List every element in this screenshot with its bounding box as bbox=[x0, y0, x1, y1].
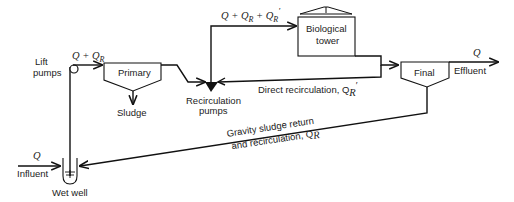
flow-diagram: Q Influent Wet well Lift pumps Q + QR Pr… bbox=[0, 0, 514, 202]
svg-text:Q + QR + QR′: Q + QR + QR′ bbox=[221, 6, 281, 24]
lift-pump-icon bbox=[70, 65, 78, 73]
svg-text:Effluent: Effluent bbox=[454, 65, 486, 76]
pumps-to-tower bbox=[211, 26, 296, 82]
svg-text:Q: Q bbox=[473, 47, 481, 58]
svg-text:Biological: Biological bbox=[306, 23, 347, 34]
svg-text:pumps: pumps bbox=[199, 105, 228, 116]
svg-text:Q + QR: Q + QR bbox=[72, 50, 105, 64]
svg-text:Sludge: Sludge bbox=[117, 107, 147, 118]
influent-label: Influent bbox=[17, 168, 49, 179]
svg-text:Primary: Primary bbox=[118, 67, 151, 78]
svg-text:pumps: pumps bbox=[33, 67, 62, 78]
wet-well-label: Wet well bbox=[52, 187, 88, 198]
svg-text:Final: Final bbox=[414, 67, 435, 78]
svg-text:Q: Q bbox=[33, 150, 41, 161]
tower-to-final bbox=[355, 56, 398, 65]
influent-flow: Q Influent bbox=[17, 150, 60, 179]
svg-text:Direct recirculation, QR′: Direct recirculation, QR′ bbox=[258, 79, 358, 98]
recirculation-pump-icon bbox=[205, 82, 218, 92]
svg-text:tower: tower bbox=[316, 35, 339, 46]
svg-text:Lift: Lift bbox=[35, 56, 48, 67]
primary-to-pumps bbox=[161, 65, 205, 82]
